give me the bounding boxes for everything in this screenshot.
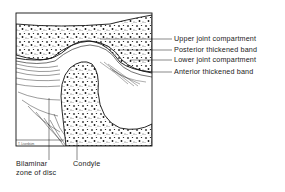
label-bilaminar-line1: Bilaminar <box>16 160 47 168</box>
label-lower-joint-compartment: Lower joint compartment <box>174 56 256 64</box>
label-posterior-thickened-band: Posterior thickened band <box>174 46 257 54</box>
label-bilaminar-line2: zone of disc <box>16 169 56 177</box>
bilaminar-fibres <box>16 64 68 146</box>
label-upper-joint-compartment: Upper joint compartment <box>174 35 256 43</box>
artist-signature: T. Lisenbüm <box>18 142 34 146</box>
label-condyle: Condyle <box>73 160 100 168</box>
tmj-diagram: Upper joint compartment Posterior thicke… <box>0 0 285 192</box>
label-anterior-thickened-band: Anterior thickened band <box>174 68 253 76</box>
